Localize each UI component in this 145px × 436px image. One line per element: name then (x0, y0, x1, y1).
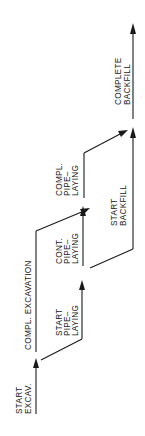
activity-start-excav: START EXCAV. (15, 358, 39, 414)
start-excav-label-2: EXCAV. (24, 384, 33, 414)
complete-backfill-label: COMPLETE (114, 57, 123, 105)
start-pipe-label-3: LAYING (71, 305, 80, 336)
activity-start-pipe-laying: START PIPE– LAYING (41, 280, 85, 360)
arrow-up-icon (130, 127, 136, 138)
activity-compl-pipe-laying: COMPL. PIPE– LAYING (55, 130, 128, 198)
activity-cont-pipe-laying: CONT. PIPE– LAYING (55, 206, 86, 266)
start-backfill-label-2: BACKFILL (119, 185, 128, 226)
activity-start-backfill: START BACKFILL (90, 127, 136, 268)
activity-complete-backfill: COMPLETE BACKFILL (114, 23, 136, 119)
arrow-up-icon (33, 358, 39, 368)
compl-excavation-diagonal (36, 211, 84, 231)
start-backfill-label: START (110, 198, 119, 226)
compl-pipe-label-3: LAYING (71, 165, 80, 196)
activity-flow-diagram: START EXCAV. COMPL. EXCAVATION START PIP… (0, 0, 145, 436)
cont-pipe-label-3: LAYING (71, 233, 80, 264)
compl-pipe-diagonal (84, 133, 122, 153)
arrow-up-icon (130, 23, 136, 34)
compl-excavation-label: COMPL. EXCAVATION (24, 260, 33, 350)
complete-backfill-label-2: BACKFILL (123, 64, 132, 105)
start-pipe-diagonal (41, 339, 82, 360)
start-backfill-diagonal (90, 249, 133, 268)
arrow-diagonal-icon (118, 130, 128, 137)
arrow-up-icon (79, 280, 85, 290)
start-excav-label: START (15, 386, 24, 414)
